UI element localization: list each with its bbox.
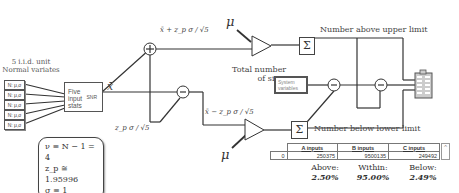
header-b-inputs: B inputs (338, 144, 389, 152)
results-table: A inputs B inputs C inputs 0 250375 9500… (270, 143, 440, 160)
normal-variate-block[interactable]: N: μ,σ (4, 110, 25, 120)
cell-a-value: 250375 (287, 152, 338, 160)
xbar-label: x̄ (107, 80, 113, 93)
above-label: Above: (300, 163, 350, 172)
below-result: Below: 2.49% (398, 163, 448, 182)
system-variables-block[interactable]: System variables (274, 76, 308, 94)
within-value: 95.00% (348, 172, 398, 182)
inputs-title-line1: 5 i.i.d. unit (0, 58, 62, 66)
header-a-inputs: A inputs (287, 144, 338, 152)
within-result: Within: 95.00% (348, 163, 398, 182)
table-row: 0 250375 9500135 249492 (271, 152, 440, 160)
below-value: 2.49% (398, 172, 448, 182)
offset-formula: z_p σ / √5 (115, 124, 149, 132)
mu-lower-label: μ (221, 147, 229, 162)
parameters-box: ν ≡ N − 1 = 4 z_p ≅ 1.95996 σ ≡ 1 (38, 137, 104, 193)
sum-upper-block[interactable]: Σ (299, 37, 315, 55)
stats-label-line1: Five (68, 88, 82, 95)
cell-b-value: 9500135 (338, 152, 389, 160)
table-header-row: A inputs B inputs C inputs (271, 144, 440, 152)
above-result: Above: 2.50% (300, 163, 350, 182)
normal-variate-block[interactable]: N: μ,σ (4, 90, 25, 100)
stats-label-line2: input (68, 95, 82, 102)
param-zp: z_p ≅ 1.95996 (45, 163, 97, 185)
param-nu: ν ≡ N − 1 = 4 (45, 141, 97, 163)
lower-limit-formula: x̄ − z_p σ / √5 (205, 108, 254, 116)
five-input-stats-block[interactable]: Five input stats SNR (64, 82, 103, 112)
inputs-title-line2: Normal variates (0, 66, 62, 74)
cell-c-value: 249492 (389, 152, 440, 160)
lower-count-label: Number below lower limit (314, 124, 420, 133)
snr-port-label: SNR (86, 94, 97, 100)
header-index (271, 144, 288, 152)
table-scrollbar[interactable]: ^ (441, 143, 450, 160)
param-sigma: σ ≡ 1 (45, 185, 97, 193)
total-sims-line1: Total number (232, 65, 286, 74)
normal-variate-block[interactable]: N: μ,σ (4, 80, 25, 90)
sum-lower-block[interactable]: Σ (291, 121, 308, 139)
inputs-title: 5 i.i.d. unit Normal variates (0, 58, 62, 74)
row-index: 0 (271, 152, 288, 160)
upper-limit-formula: x̄ + z_p σ / √5 (160, 26, 209, 34)
within-label: Within: (348, 163, 398, 172)
header-c-inputs: C inputs (389, 144, 440, 152)
upper-count-label: Number above upper limit (320, 25, 427, 34)
above-value: 2.50% (300, 172, 350, 182)
normal-variate-block[interactable]: N: μ,σ (4, 120, 25, 130)
data-store-icon (415, 70, 432, 98)
normal-variate-block[interactable]: N: μ,σ (4, 100, 25, 110)
stats-label-line3: stats (68, 102, 82, 109)
mu-upper-label: μ (226, 14, 234, 29)
sysvar-line2: variables (278, 85, 304, 91)
below-label: Below: (398, 163, 448, 172)
